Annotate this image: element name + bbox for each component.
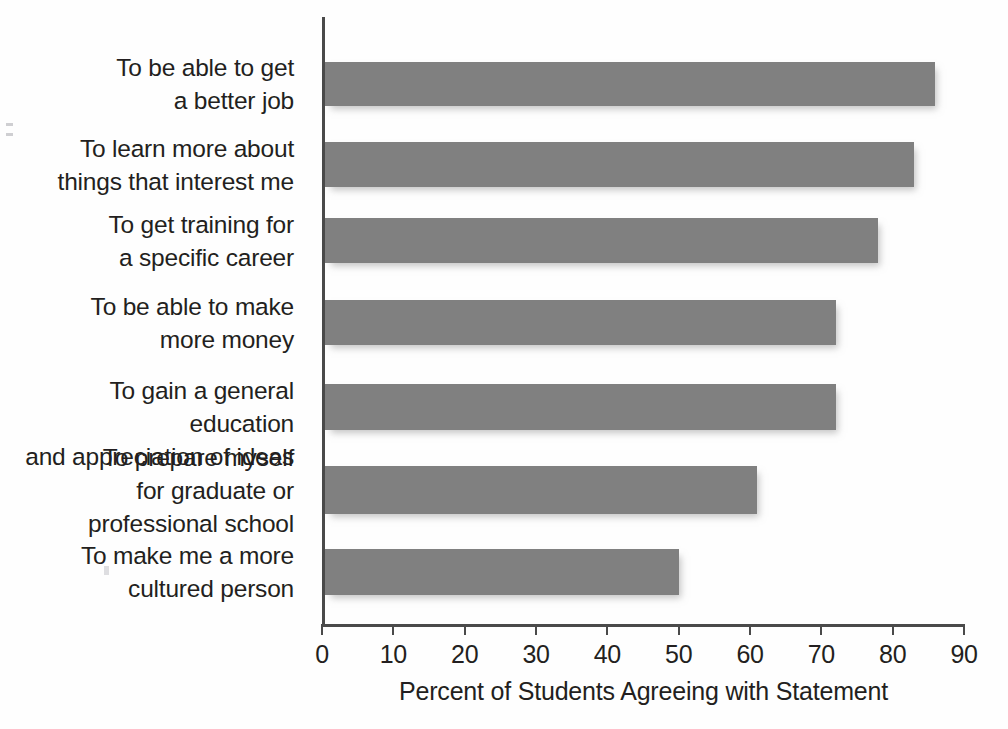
bar-row: To be able to get a better job — [0, 62, 1008, 106]
x-tick — [464, 624, 466, 635]
scan-artifact — [6, 123, 13, 126]
chart-page: 0102030405060708090 To be able to get a … — [0, 0, 1008, 729]
category-label: To be able to make more money — [91, 290, 294, 356]
bar-row: To prepare myself for graduate or profes… — [0, 466, 1008, 514]
x-tick-label: 30 — [506, 639, 566, 669]
category-label: To be able to get a better job — [116, 51, 294, 117]
bar-row: To learn more about things that interest… — [0, 142, 1008, 187]
x-tick-label: 80 — [863, 639, 923, 669]
scan-artifact — [6, 133, 13, 136]
x-tick-label: 70 — [791, 639, 851, 669]
category-label: To learn more about things that interest… — [58, 132, 294, 198]
x-tick-label: 60 — [720, 639, 780, 669]
bar — [325, 466, 757, 514]
x-tick-label: 50 — [649, 639, 709, 669]
x-tick — [392, 624, 394, 635]
x-axis-line — [322, 624, 965, 627]
bar — [325, 549, 679, 595]
bar-row: To get training for a specific career — [0, 218, 1008, 263]
x-tick — [963, 624, 965, 635]
x-tick — [749, 624, 751, 635]
x-tick — [606, 624, 608, 635]
category-label: To prepare myself for graduate or profes… — [88, 441, 294, 540]
x-tick-label: 40 — [577, 639, 637, 669]
bar-row: To gain a general education and apprecia… — [0, 384, 1008, 430]
x-tick — [820, 624, 822, 635]
bar-row: To make me a more cultured person — [0, 549, 1008, 595]
bar — [325, 142, 914, 187]
bar-row: To be able to make more money — [0, 300, 1008, 345]
x-tick-label: 0 — [292, 639, 352, 669]
category-label: To make me a more cultured person — [81, 539, 294, 605]
x-tick-label: 90 — [934, 639, 994, 669]
bar — [325, 62, 935, 106]
bar — [325, 300, 836, 345]
x-tick — [535, 624, 537, 635]
x-tick-label: 20 — [435, 639, 495, 669]
category-label: To get training for a specific career — [108, 208, 294, 274]
x-tick — [321, 624, 323, 635]
bar — [325, 218, 878, 263]
x-tick-label: 10 — [363, 639, 423, 669]
x-tick — [892, 624, 894, 635]
bar — [325, 384, 836, 430]
x-tick — [678, 624, 680, 635]
bar-chart: 0102030405060708090 To be able to get a … — [0, 0, 1008, 729]
x-axis-title: Percent of Students Agreeing with Statem… — [322, 676, 965, 706]
